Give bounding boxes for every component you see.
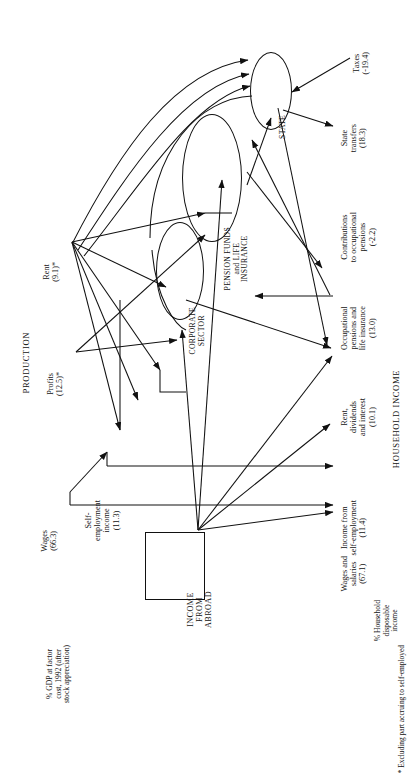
node-income-from-abroad-label: INCOME FROM ABROAD xyxy=(186,591,214,628)
household-item-income-from-self-employment: Income from self-employment (11.4) xyxy=(340,500,368,555)
household-item-occupational-pensions: Occupational pensions and life insurance… xyxy=(340,306,377,350)
gdp-basis-note: % GDP at factor cost, 1992 (after stock … xyxy=(46,645,72,703)
household-item-wages-and-salaries: Wages and salaries (67.1) xyxy=(340,556,368,592)
household-item-contributions-to-occupational-pensions: Contributions to occupational pensions (… xyxy=(340,212,377,262)
household-item-rent-dividends-interest: Rent, dividends and interest (10.1) xyxy=(340,398,377,436)
node-state[interactable]: STATE xyxy=(250,52,292,130)
household-item-taxes: Taxes (-19.4) xyxy=(352,52,370,75)
household-item-state-transfers: State transfers (18.3) xyxy=(340,124,368,152)
node-income-from-abroad[interactable]: INCOME FROM ABROAD xyxy=(145,532,205,600)
node-state-label: STATE xyxy=(279,115,288,139)
figure-footnote: * Excluding part accruing to self-employ… xyxy=(398,645,406,773)
